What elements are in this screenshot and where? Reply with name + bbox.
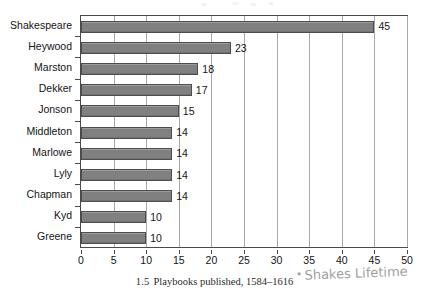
bar (81, 148, 172, 160)
annotation-bullet-icon: • (296, 268, 303, 281)
y-axis-label-middleton: Middleton (26, 126, 72, 137)
x-axis-tick-label: 5 (111, 255, 117, 266)
caption-text: Playbooks published, 1584–1616 (154, 276, 294, 287)
bar (81, 232, 146, 244)
bar-row: 23 (81, 42, 407, 54)
y-axis-tick (75, 121, 80, 122)
bar-value-label: 14 (176, 170, 188, 181)
bar-row: 18 (81, 63, 407, 75)
y-axis-label-lyly: Lyly (54, 168, 72, 179)
bar-value-label: 14 (176, 148, 188, 159)
y-axis-label-greene: Greene (37, 231, 72, 242)
scan-artifact (201, 3, 207, 6)
y-axis-tick (75, 227, 80, 228)
bar (81, 105, 179, 117)
figure-playbooks-published: ShakespeareHeywoodMarstonDekkerJonsonMid… (0, 0, 429, 302)
bar (81, 127, 172, 139)
y-axis-tick (75, 206, 80, 207)
y-axis-label-heywood: Heywood (28, 41, 72, 52)
bar-row: 15 (81, 105, 407, 117)
bar (81, 84, 192, 96)
y-axis-label-kyd: Kyd (54, 210, 72, 221)
bar-value-label: 45 (378, 21, 390, 32)
x-axis-tick-label: 10 (140, 255, 152, 266)
bar-row: 45 (81, 21, 407, 33)
y-axis-tick (75, 79, 80, 80)
bar-value-label: 10 (150, 233, 162, 244)
y-axis-tick (75, 184, 80, 185)
bar-value-label: 10 (150, 212, 162, 223)
y-axis-tick (75, 163, 80, 164)
bar-value-label: 15 (183, 106, 195, 117)
y-axis-tick (75, 57, 80, 58)
scan-artifact (250, 3, 256, 6)
caption-number: 1.5 (136, 276, 150, 287)
x-axis-tick-label: 15 (173, 255, 185, 266)
bar-row: 14 (81, 190, 407, 202)
bar-value-label: 17 (196, 85, 208, 96)
scan-artifact (268, 2, 274, 5)
y-axis-label-dekker: Dekker (39, 83, 72, 94)
plot-area: 4523181715141414141010 (80, 15, 408, 248)
x-axis-tick-label: 0 (78, 255, 84, 266)
bar-row: 10 (81, 211, 407, 223)
x-axis-tick-label: 35 (303, 255, 315, 266)
gridline (407, 16, 408, 247)
bar-row: 14 (81, 148, 407, 160)
y-axis-label-marlowe: Marlowe (32, 147, 72, 158)
x-axis-tick-label: 30 (271, 255, 283, 266)
bar-value-label: 14 (176, 127, 188, 138)
y-axis-tick (75, 142, 80, 143)
y-axis-label-jonson: Jonson (38, 104, 72, 115)
bar-value-label: 23 (235, 43, 247, 54)
bar-value-label: 18 (202, 64, 214, 75)
x-axis-tick-label: 20 (206, 255, 218, 266)
y-axis-category-labels: ShakespeareHeywoodMarstonDekkerJonsonMid… (0, 15, 76, 248)
bar (81, 63, 198, 75)
scan-artifact (232, 2, 239, 5)
bar-row: 14 (81, 169, 407, 181)
bar-row: 14 (81, 127, 407, 139)
bar (81, 190, 172, 202)
x-axis-tick-label: 25 (238, 255, 250, 266)
bar-value-label: 14 (176, 191, 188, 202)
x-axis-tick-label: 40 (336, 255, 348, 266)
y-axis-label-marston: Marston (34, 62, 72, 73)
y-axis-tick (75, 36, 80, 37)
bar (81, 211, 146, 223)
bar (81, 42, 231, 54)
y-axis-label-shakespeare: Shakespeare (10, 20, 72, 31)
y-axis-label-chapman: Chapman (26, 189, 72, 200)
bar-row: 17 (81, 84, 407, 96)
bar (81, 169, 172, 181)
bars-layer: 4523181715141414141010 (81, 16, 407, 247)
bar-row: 10 (81, 232, 407, 244)
y-axis-tick (75, 100, 80, 101)
bar (81, 21, 374, 33)
